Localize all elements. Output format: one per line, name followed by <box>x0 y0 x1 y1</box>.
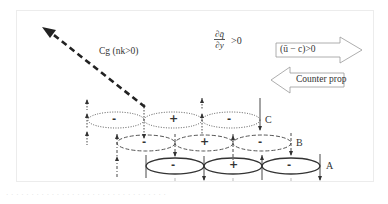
row-b-label: B <box>296 137 303 148</box>
mean-flow-label: (ū − c)>0 <box>280 44 316 54</box>
group-velocity-label: Cg (nk>0) <box>99 46 138 56</box>
row-c-sign-1: - <box>112 113 116 124</box>
counter-prop-label: Counter prop <box>296 74 346 84</box>
row-b-sign-1: - <box>142 136 146 147</box>
row-a-sign-3: - <box>287 159 291 170</box>
pv-gradient-relation: >0 <box>231 35 242 46</box>
row-c-sign-2: + <box>169 112 178 125</box>
rossby-wave-diagram <box>0 0 388 204</box>
row-a-sign-2: + <box>229 158 238 171</box>
figure-caption: · · · · · · · · · · · · · · · · · · · · … <box>6 191 266 201</box>
pv-gradient-numerator: ∂q̄ <box>214 29 225 40</box>
pv-gradient-fraction: ∂q̄ ∂y <box>214 29 225 50</box>
bottom-ticks <box>175 178 291 181</box>
row-b-sign-3: - <box>258 136 262 147</box>
pv-gradient-denominator: ∂y <box>214 40 225 50</box>
row-b-sign-2: + <box>200 135 209 148</box>
row-a-sign-1: - <box>171 159 175 170</box>
row-c-sign-3: - <box>227 113 231 124</box>
row-c-label: C <box>265 114 272 125</box>
group-velocity-arrow <box>42 27 145 107</box>
row-a-label: A <box>326 160 333 171</box>
